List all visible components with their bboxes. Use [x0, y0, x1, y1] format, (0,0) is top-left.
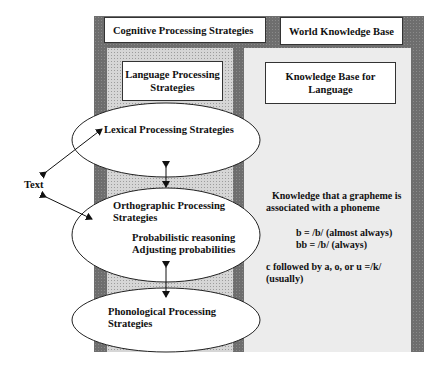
phonological-label-1: Phonological Processing: [108, 306, 216, 318]
knowledge-line-2: associated with a phoneme: [266, 202, 380, 214]
phonological-ellipse: [72, 288, 260, 352]
knowledge-line-1: Knowledge that a grapheme is: [272, 190, 401, 202]
rule-b: b = /b/ (almost always): [296, 227, 392, 239]
probabilistic-label: Probabilistic reasoning: [132, 232, 235, 244]
orthographic-label-1: Orthographic Processing: [113, 200, 225, 212]
lexical-label: Lexical Processing Strategies: [104, 124, 234, 136]
phonological-label-2: Strategies: [108, 318, 152, 330]
rule-bb: bb = /b/ (always): [296, 239, 367, 251]
orthographic-label-2: Strategies: [113, 212, 157, 224]
lexical-ellipse: [72, 103, 260, 177]
adjusting-label: Adjusting probabilities: [132, 244, 235, 256]
rule-c-usually: (usually): [266, 273, 303, 285]
rule-c: c followed by a, o, or u =/k/: [266, 261, 381, 273]
text-ortho-arrow: [46, 197, 92, 219]
diagram-shapes: [0, 0, 446, 371]
text-node: Text: [24, 179, 43, 191]
